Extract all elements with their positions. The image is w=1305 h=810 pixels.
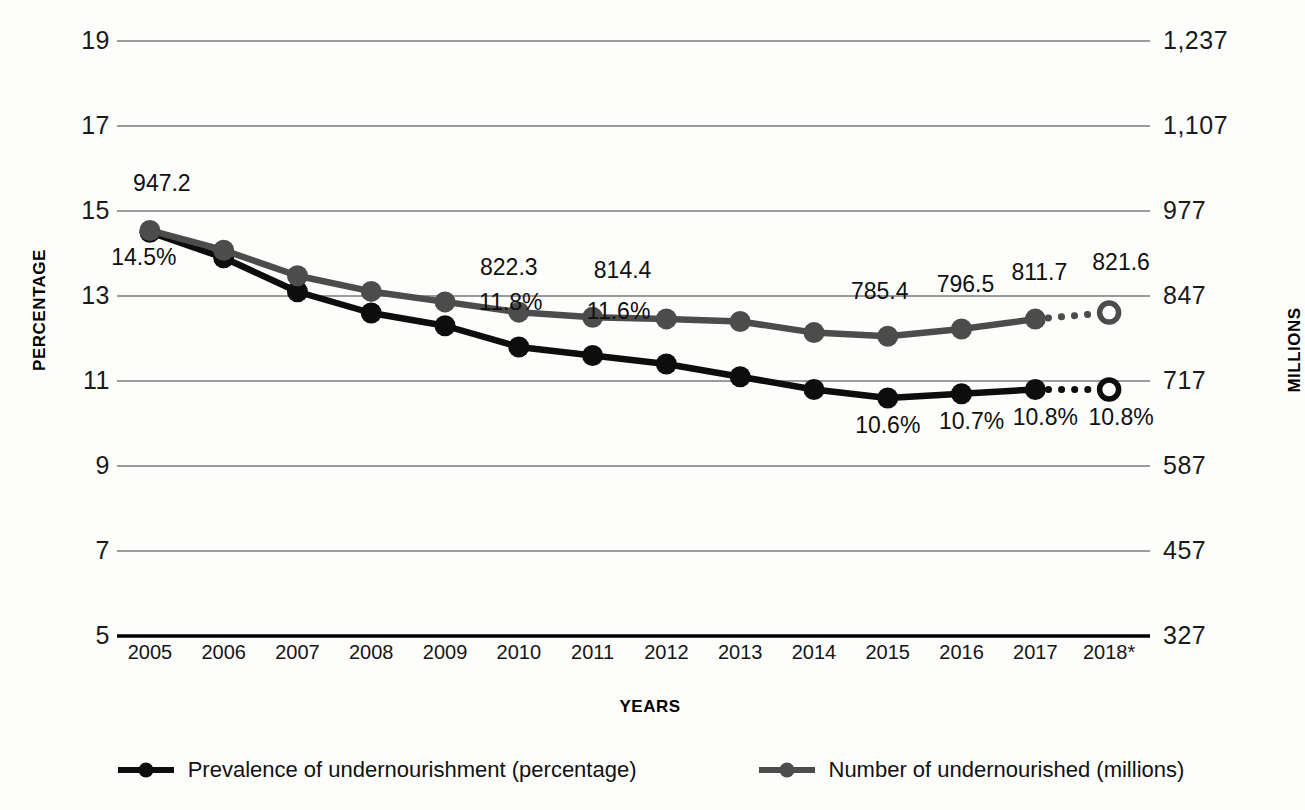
x-axis-title: YEARS [0, 697, 1300, 717]
legend-item-number[interactable]: Number of undernourished (millions) [757, 757, 1185, 783]
data-point-marker[interactable] [656, 354, 677, 375]
data-label: 822.3 [454, 254, 564, 281]
data-point-marker[interactable] [1100, 380, 1119, 399]
data-point-marker[interactable] [361, 281, 382, 302]
y-right-tick-2: 977 [1163, 196, 1283, 225]
data-label: 821.6 [1066, 249, 1176, 276]
y-right-tick-4: 717 [1163, 366, 1283, 395]
gridlines [117, 41, 1150, 636]
y-left-tick-6: 7 [30, 536, 110, 565]
y-right-tick-5: 587 [1163, 451, 1283, 480]
y-left-tick-0: 19 [30, 26, 110, 55]
legend-label-number: Number of undernourished (millions) [829, 757, 1185, 783]
data-point-marker[interactable] [139, 220, 160, 241]
y-right-tick-3: 847 [1163, 281, 1283, 310]
data-point-marker[interactable] [213, 240, 234, 261]
y-right-tick-7: 327 [1163, 621, 1283, 650]
data-point-marker[interactable] [139, 222, 160, 243]
legend-label-prevalence: Prevalence of undernourishment (percenta… [188, 757, 637, 783]
series-projection-line-1 [1035, 313, 1109, 319]
data-point-marker[interactable] [803, 379, 824, 400]
data-point-marker[interactable] [213, 247, 234, 268]
data-point-marker[interactable] [951, 319, 972, 340]
y-right-tick-6: 457 [1163, 536, 1283, 565]
y-left-tick-2: 15 [30, 196, 110, 225]
data-point-marker[interactable] [730, 311, 751, 332]
y-axis-right-title: MILLIONS [1285, 270, 1305, 430]
x-tick-2018: 2018* [1064, 641, 1154, 664]
y-axis-left-title: PERCENTAGE [30, 230, 50, 390]
data-point-marker[interactable] [1025, 379, 1046, 400]
data-point-marker[interactable] [877, 388, 898, 409]
y-left-tick-5: 9 [30, 451, 110, 480]
legend-item-prevalence[interactable]: Prevalence of undernourishment (percenta… [116, 757, 637, 783]
data-point-marker[interactable] [361, 303, 382, 324]
data-point-marker[interactable] [287, 265, 308, 286]
data-label: 814.4 [568, 257, 678, 284]
data-point-marker[interactable] [877, 326, 898, 347]
data-point-marker[interactable] [435, 315, 456, 336]
data-point-marker[interactable] [803, 322, 824, 343]
data-label: 10.8% [1066, 404, 1176, 431]
data-label: 947.2 [107, 170, 217, 197]
data-label: 11.6% [564, 298, 674, 325]
chart-legend: Prevalence of undernourishment (percenta… [0, 757, 1300, 783]
y-left-tick-1: 17 [30, 111, 110, 140]
data-point-marker[interactable] [435, 291, 456, 312]
data-point-marker[interactable] [508, 337, 529, 358]
data-label: 11.8% [456, 289, 566, 316]
y-right-tick-0: 1,237 [1163, 26, 1283, 55]
data-point-marker[interactable] [1100, 303, 1119, 322]
data-point-marker[interactable] [1025, 309, 1046, 330]
legend-marker-line-dot-icon-2 [757, 760, 817, 780]
data-point-marker[interactable] [287, 281, 308, 302]
y-right-tick-1: 1,107 [1163, 111, 1283, 140]
y-left-tick-7: 5 [30, 621, 110, 650]
data-label: 14.5% [89, 244, 199, 271]
data-point-marker[interactable] [951, 383, 972, 404]
data-point-marker[interactable] [730, 366, 751, 387]
legend-marker-line-dot-icon [116, 760, 176, 780]
data-point-marker[interactable] [582, 345, 603, 366]
